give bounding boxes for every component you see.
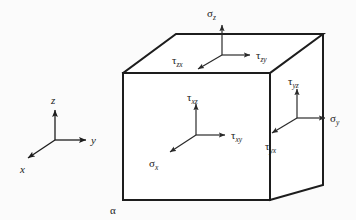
- cube-body: [123, 34, 323, 200]
- cube-front-face: [123, 73, 270, 200]
- stress-element-figure: σz τzy τzx τxz τxy σx τyz σy τyx z y x α: [0, 0, 356, 220]
- corner-alpha-label: α: [110, 204, 116, 216]
- figure-canvas: σz τzy τzx τxz τxy σx τyz σy τyx z y x α: [0, 0, 356, 220]
- axis-x-arrow: [28, 140, 55, 158]
- axis-x-label: x: [19, 163, 25, 175]
- axis-y-label: y: [90, 134, 96, 146]
- axis-z-label: z: [50, 94, 56, 106]
- sigma-z-label: σz: [207, 7, 216, 22]
- coordinate-triad: [28, 110, 86, 158]
- sigma-y-label: σy: [330, 112, 340, 127]
